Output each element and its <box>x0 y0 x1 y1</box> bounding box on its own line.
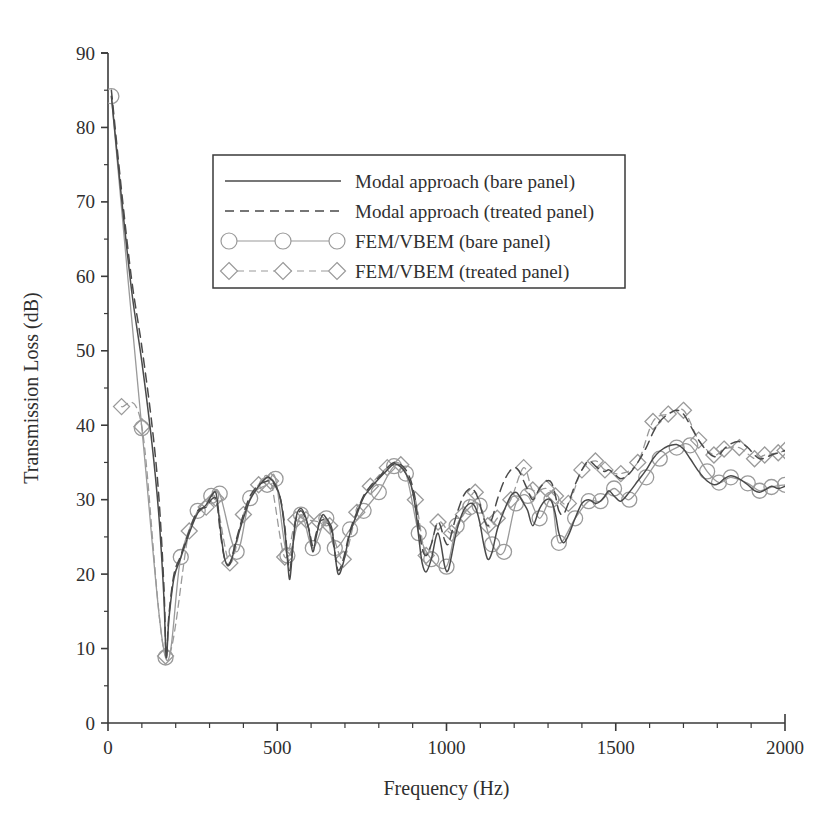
y-axis-tick-label: 10 <box>76 638 95 659</box>
chart-legend: Modal approach (bare panel)Modal approac… <box>213 155 625 288</box>
y-axis-tick-label: 70 <box>76 191 95 212</box>
x-axis-tick-label: 1500 <box>597 737 635 758</box>
legend-entry-label: FEM/VBEM (bare panel) <box>355 231 550 253</box>
legend-entry-label: FEM/VBEM (treated panel) <box>355 261 569 283</box>
x-axis-title: Frequency (Hz) <box>383 777 509 800</box>
y-axis-tick-label: 0 <box>86 713 96 734</box>
data-point-marker <box>660 406 676 422</box>
x-axis-tick-label: 2000 <box>766 737 804 758</box>
x-axis-tick-label: 500 <box>263 737 292 758</box>
data-point-marker <box>430 514 446 530</box>
chart-figure: 01020304050607080900500100015002000Frequ… <box>0 0 839 823</box>
data-point-marker <box>770 445 786 461</box>
y-axis-tick-label: 30 <box>76 489 95 510</box>
data-point-marker <box>706 447 722 463</box>
legend-entry-label: Modal approach (bare panel) <box>355 171 575 193</box>
y-axis-tick-label: 90 <box>76 43 95 64</box>
legend-marker-circle-icon <box>275 233 291 249</box>
transmission-loss-chart: 01020304050607080900500100015002000Frequ… <box>0 0 839 823</box>
y-axis-tick-label: 80 <box>76 117 95 138</box>
y-axis-tick-label: 60 <box>76 266 95 287</box>
legend-marker-circle-icon <box>221 233 237 249</box>
y-axis-tick-label: 20 <box>76 564 95 585</box>
legend-entry-label: Modal approach (treated panel) <box>355 201 594 223</box>
x-axis-tick-label: 1000 <box>428 737 466 758</box>
y-axis-tick-label: 50 <box>76 340 95 361</box>
x-axis-tick-label: 0 <box>103 737 113 758</box>
y-axis-title: Transmission Loss (dB) <box>20 292 43 484</box>
legend-marker-circle-icon <box>329 233 345 249</box>
y-axis-tick-label: 40 <box>76 415 95 436</box>
